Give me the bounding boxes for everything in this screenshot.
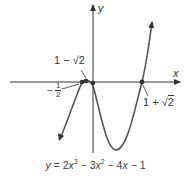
label-1-plus-sqrt2-radicand: 2 <box>168 95 174 108</box>
curve-arrow-left-icon <box>58 133 64 141</box>
root-dot-neg-half <box>80 80 84 84</box>
pointer-1-minus-sqrt2 <box>81 70 86 78</box>
fraction-denominator: 2 <box>55 91 61 99</box>
label-neg-half-fraction: 1 2 <box>55 82 61 99</box>
label-1-minus-sqrt2: 1 − √2 <box>54 55 85 66</box>
label-1-plus-sqrt2: 1 + √2 <box>143 97 174 108</box>
equation-caption: y = 2x3 − 3x2 − 4x − 1 <box>0 158 191 171</box>
eq-part1: = 2 <box>51 159 69 171</box>
root-dot-1-plus-sqrt2 <box>140 80 145 85</box>
pointer-neg-half <box>62 84 79 89</box>
x-axis-label: x <box>173 68 179 79</box>
eq-part4: − 1 <box>128 159 146 171</box>
label-1-plus-sqrt2-prefix: 1 + √ <box>143 96 168 108</box>
eq-part2: − 3 <box>78 159 96 171</box>
cubic-curve <box>61 22 152 150</box>
y-axis-label: y <box>98 3 104 14</box>
eq-part3: − 4 <box>105 159 123 171</box>
pointer-1-plus-sqrt2 <box>143 85 148 96</box>
root-dot-1-minus-sqrt2 <box>84 79 88 83</box>
root-dot-y-intercept <box>91 81 95 85</box>
label-neg-half-sign: − <box>47 86 53 96</box>
graph-canvas <box>0 0 191 178</box>
